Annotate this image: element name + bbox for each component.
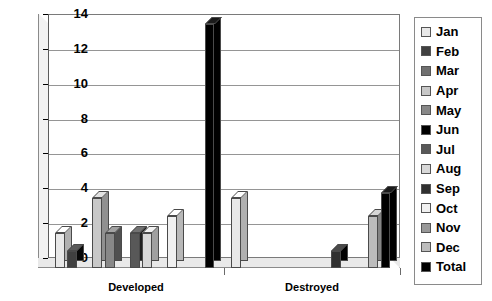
legend-item-aug[interactable]: Aug xyxy=(421,159,481,179)
legend-swatch-icon xyxy=(421,203,431,213)
legend-item-label: Jun xyxy=(436,123,459,136)
legend-item-apr[interactable]: Apr xyxy=(421,81,481,101)
bar-front-face xyxy=(55,233,65,268)
bar-front-face xyxy=(331,251,341,268)
legend-swatch-icon xyxy=(421,46,431,56)
bar xyxy=(368,209,378,268)
legend-swatch-icon xyxy=(421,223,431,233)
category-label: Developed xyxy=(86,281,186,293)
category-label: Destroyed xyxy=(262,281,362,293)
legend-item-label: Jul xyxy=(436,143,455,156)
bar xyxy=(331,244,341,268)
legend-item-oct[interactable]: Oct xyxy=(421,198,481,218)
legend-item-label: Mar xyxy=(436,64,459,77)
bar-front-face xyxy=(368,216,378,268)
legend-swatch-icon xyxy=(421,164,431,174)
legend-swatch-icon xyxy=(421,262,431,272)
legend-item-total[interactable]: Total xyxy=(421,257,481,277)
legend-item-dec[interactable]: Dec xyxy=(421,238,481,258)
bar-side-face xyxy=(390,186,397,261)
bar xyxy=(205,17,215,268)
bar-front-face xyxy=(231,198,241,268)
bar-front-face xyxy=(381,193,391,268)
legend-swatch-icon xyxy=(421,105,431,115)
bar-chart: 02468101214 DevelopedDestroyed JanFebMar… xyxy=(0,0,492,301)
legend-swatch-icon xyxy=(421,144,431,154)
bar-front-face xyxy=(130,233,140,268)
bars-layer xyxy=(38,14,410,278)
legend-swatch-icon xyxy=(421,86,431,96)
bar xyxy=(231,191,241,268)
legend-item-label: May xyxy=(436,104,461,117)
chart-legend: JanFebMarAprMayJunJulAugSepOctNovDecTota… xyxy=(414,17,482,285)
bar-front-face xyxy=(205,24,215,268)
legend-item-jan[interactable]: Jan xyxy=(421,22,481,42)
legend-item-nov[interactable]: Nov xyxy=(421,218,481,238)
bar-front-face xyxy=(92,198,102,268)
bar xyxy=(381,186,391,268)
legend-item-label: Feb xyxy=(436,45,459,58)
legend-swatch-icon xyxy=(421,125,431,135)
bar xyxy=(142,226,152,268)
bar-front-face xyxy=(105,233,115,268)
legend-item-label: Sep xyxy=(436,182,460,195)
legend-item-feb[interactable]: Feb xyxy=(421,42,481,62)
legend-item-label: Jan xyxy=(436,25,458,38)
bar xyxy=(167,209,177,268)
legend-item-sep[interactable]: Sep xyxy=(421,179,481,199)
legend-item-label: Dec xyxy=(436,241,460,254)
category-tick-mark xyxy=(224,268,225,275)
bar-front-face xyxy=(67,251,77,268)
legend-item-label: Total xyxy=(436,260,466,273)
legend-swatch-icon xyxy=(421,184,431,194)
legend-item-label: Nov xyxy=(436,221,461,234)
legend-item-label: Oct xyxy=(436,202,458,215)
legend-item-jun[interactable]: Jun xyxy=(421,120,481,140)
legend-item-jul[interactable]: Jul xyxy=(421,140,481,160)
legend-swatch-icon xyxy=(421,27,431,37)
bar xyxy=(92,191,102,268)
bar xyxy=(67,244,77,268)
legend-swatch-icon xyxy=(421,66,431,76)
legend-swatch-icon xyxy=(421,242,431,252)
bar-side-face xyxy=(241,191,248,261)
legend-item-label: Aug xyxy=(436,162,461,175)
legend-item-mar[interactable]: Mar xyxy=(421,61,481,81)
legend-item-may[interactable]: May xyxy=(421,100,481,120)
bar-side-face xyxy=(177,209,184,261)
bar xyxy=(55,226,65,268)
legend-item-label: Apr xyxy=(436,84,458,97)
bar xyxy=(130,226,140,268)
bar xyxy=(105,226,115,268)
bar-front-face xyxy=(142,233,152,268)
category-tick-mark xyxy=(400,268,401,275)
bar-side-face xyxy=(214,17,221,261)
bar-front-face xyxy=(167,216,177,268)
